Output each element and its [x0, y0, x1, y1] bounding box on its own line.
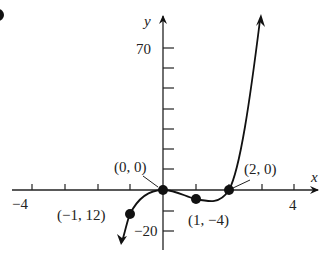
- curve-arrow-up-icon: [256, 14, 265, 27]
- leader-2-0: [233, 180, 250, 188]
- x-tick-label-neg4: −4: [12, 196, 28, 212]
- point-2-0: [224, 185, 234, 195]
- curve-arrow-down-icon: [117, 234, 127, 245]
- x-axis-label: x: [310, 169, 318, 185]
- y-axis-label: y: [142, 13, 151, 29]
- polynomial-graph: y x 70 −20 −4 4 (0, 0) (2, 0) (−1, 12) (…: [0, 0, 325, 257]
- label-point-1-neg4: (1, −4): [188, 212, 229, 229]
- label-point-neg1-12: (−1, 12): [57, 207, 105, 224]
- point-0-0: [158, 185, 168, 195]
- y-tick-label-neg20: −20: [134, 223, 157, 239]
- label-point-2-0: (2, 0): [244, 161, 277, 178]
- y-ticks: [163, 48, 174, 231]
- label-point-0-0: (0, 0): [114, 159, 147, 176]
- x-tick-label-4: 4: [289, 197, 297, 213]
- leader-0-0: [143, 176, 158, 187]
- y-tick-label-70: 70: [136, 41, 151, 57]
- point-neg1-12: [125, 209, 135, 219]
- point-1-neg4: [191, 194, 201, 204]
- panel-marker: [0, 9, 4, 21]
